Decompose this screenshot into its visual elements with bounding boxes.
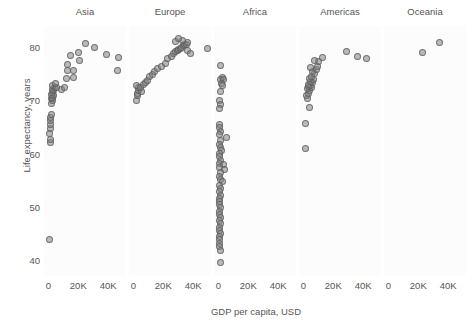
- x-tick-label: 40K: [440, 280, 457, 291]
- data-point: [175, 35, 182, 42]
- data-point: [67, 52, 74, 59]
- y-tick-label: 60: [2, 148, 40, 159]
- y-tick-label: 40: [2, 255, 40, 266]
- data-point: [114, 67, 121, 74]
- data-point: [70, 74, 77, 81]
- x-tick-label: 20K: [410, 280, 427, 291]
- x-axis-title: GDP per capita, USD: [44, 306, 468, 317]
- panel-oceania: Oceania020K40K: [384, 26, 466, 276]
- data-point: [419, 49, 426, 56]
- y-tick-label: 70: [2, 95, 40, 106]
- panel-background: [129, 26, 211, 276]
- data-point: [343, 48, 350, 55]
- y-axis: 4050607080: [0, 0, 40, 328]
- data-point: [64, 61, 71, 68]
- x-tick-label: 0: [386, 280, 391, 291]
- x-tick-label: 20K: [155, 280, 172, 291]
- x-tick-label: 40K: [270, 280, 287, 291]
- panel-asia: Asia020K40K: [44, 26, 126, 276]
- data-point: [187, 50, 194, 57]
- data-point: [204, 45, 211, 52]
- y-tick-label: 50: [2, 201, 40, 212]
- data-point: [217, 259, 224, 266]
- data-point: [75, 49, 82, 56]
- x-tick-label: 40K: [355, 280, 372, 291]
- panel-title: Asia: [44, 6, 126, 17]
- panel-background: [214, 26, 296, 276]
- panel-background: [44, 26, 126, 276]
- panel-background: [384, 26, 466, 276]
- x-tick-label: 0: [216, 280, 221, 291]
- panel-africa: Africa020K40K: [214, 26, 296, 276]
- data-point: [63, 75, 70, 82]
- x-tick-label: 0: [131, 280, 136, 291]
- x-tick-label: 0: [301, 280, 306, 291]
- data-point: [354, 53, 361, 60]
- y-tick-label: 80: [2, 42, 40, 53]
- panel-americas: Americas020K40K: [299, 26, 381, 276]
- data-point: [91, 44, 98, 51]
- x-tick-label: 20K: [70, 280, 87, 291]
- data-point: [70, 67, 77, 74]
- panel-europe: Europe020K40K: [129, 26, 211, 276]
- x-tick-label: 20K: [325, 280, 342, 291]
- x-tick-label: 20K: [240, 280, 257, 291]
- panel-title: Oceania: [384, 6, 466, 17]
- x-tick-label: 0: [46, 280, 51, 291]
- x-tick-label: 40K: [100, 280, 117, 291]
- panel-title: Americas: [299, 6, 381, 17]
- data-point: [48, 111, 55, 118]
- panel-title: Europe: [129, 6, 211, 17]
- panel-title: Africa: [214, 6, 296, 17]
- scatter-plot-figure: Life expectancy, years GDP per capita, U…: [0, 0, 472, 328]
- data-point: [52, 80, 59, 87]
- data-point: [217, 247, 224, 254]
- data-point: [319, 54, 326, 61]
- data-point: [311, 57, 318, 64]
- x-tick-label: 40K: [185, 280, 202, 291]
- data-point: [76, 57, 83, 64]
